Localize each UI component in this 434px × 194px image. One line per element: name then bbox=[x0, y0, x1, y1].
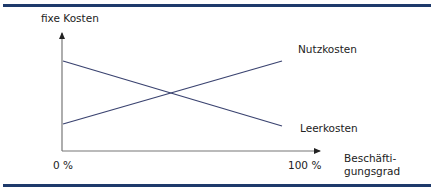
x-tick-100: 100 % bbox=[288, 159, 321, 171]
x-axis-label-line1: Beschäfti- bbox=[344, 152, 400, 165]
nutzkosten-label: Nutzkosten bbox=[298, 43, 357, 55]
x-axis-label: Beschäfti- gungsgrad bbox=[344, 152, 400, 178]
x-tick-0: 0 % bbox=[53, 159, 73, 171]
bottom-rule bbox=[3, 184, 431, 187]
leerkosten-label: Leerkosten bbox=[300, 122, 358, 134]
x-axis-label-line2: gungsgrad bbox=[344, 165, 400, 178]
y-axis-label: fixe Kosten bbox=[41, 12, 99, 24]
